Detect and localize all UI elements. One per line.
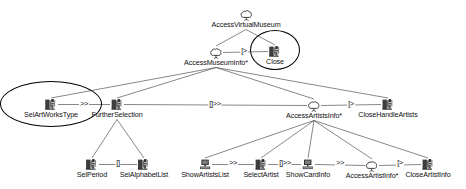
abstract-task-cloud-icon [209, 46, 223, 59]
task-node-showArtistsList[interactable]: ShowArtistsList [181, 158, 229, 179]
task-node-closeHandleArtists[interactable]: CloseHandleArtists [358, 98, 417, 119]
task-node-label: Close [266, 58, 284, 66]
enabling-operator[interactable]: >> [335, 158, 345, 167]
enabling-with-info-operator[interactable]: []>> [208, 99, 221, 108]
interaction-task-icon [44, 98, 58, 111]
task-node-accessArtistInfo[interactable]: AccessArtistInfo* [346, 159, 399, 180]
task-node-label: CloseArtistInfo [405, 171, 450, 179]
task-node-label: AccessArtistsInfo* [286, 112, 342, 120]
task-node-label: FurtherSelection [91, 111, 142, 119]
interaction-task-icon [268, 45, 282, 58]
tree-edge-accessMuseumInfo-closeHandleArtists [216, 68, 388, 99]
task-node-label: ShowArtistsList [181, 171, 229, 179]
tree-edge-accessMuseumInfo-selArtWorksType [51, 68, 216, 99]
task-node-selArtWorksType[interactable]: SelArtWorksType [24, 98, 78, 119]
tree-edge-furtherSelection-selAlphabetList [117, 120, 144, 159]
task-node-label: ShowCardInfo [286, 171, 330, 179]
tree-edge-accessMuseumInfo-accessArtistsInfo [216, 68, 314, 100]
application-task-icon [301, 158, 315, 171]
tree-edge-accessArtistsInfo-closeArtistInfo [314, 121, 428, 159]
task-node-accessArtistsInfo[interactable]: AccessArtistsInfo* [286, 99, 342, 120]
interaction-task-icon [421, 158, 435, 171]
abstract-task-cloud-icon [365, 159, 379, 172]
disabling-operator[interactable]: [> [396, 158, 404, 167]
enabling-with-info-operator[interactable]: []>> [278, 158, 291, 167]
task-node-selAlphabetList[interactable]: SelAlphabetList [120, 158, 168, 179]
tree-edge-furtherSelection-selPeriod [92, 120, 117, 159]
disabling-operator[interactable]: [> [347, 99, 355, 108]
task-node-selectArtist[interactable]: SelectArtist [243, 158, 278, 179]
abstract-task-cloud-icon [239, 8, 253, 21]
abstract-task-cloud-icon [307, 99, 321, 112]
interaction-task-icon [137, 158, 151, 171]
interaction-task-icon [254, 158, 268, 171]
task-node-closeArtistInfo[interactable]: CloseArtistInfo [405, 158, 450, 179]
tree-edge-accessArtistsInfo-selectArtist [261, 121, 314, 159]
interaction-task-icon [85, 158, 99, 171]
task-node-label: SelAlphabetList [120, 171, 168, 179]
interaction-task-icon [381, 98, 395, 111]
task-node-close[interactable]: Close [266, 45, 284, 66]
tree-edge-accessMuseumInfo-furtherSelection [117, 68, 216, 99]
task-node-label: SelectArtist [243, 171, 278, 179]
tree-edge-accessArtistsInfo-showArtistsList [205, 121, 314, 159]
task-node-showCardInfo[interactable]: ShowCardInfo [286, 158, 330, 179]
task-node-label: SelArtWorksType [24, 111, 78, 119]
task-node-accessMuseumInfo[interactable]: AccessMuseumInfo* [184, 46, 248, 67]
ctt-task-model-diagram: AccessVirtualMuseumAccessMuseumInfo*Clos… [0, 0, 466, 189]
task-node-label: AccessMuseumInfo* [184, 59, 248, 67]
tree-edge-accessVirtualMuseum-accessMuseumInfo [216, 30, 246, 47]
task-node-label: SelPeriod [77, 171, 107, 179]
application-task-icon [198, 158, 212, 171]
tree-edge-accessArtistsInfo-accessArtistInfo [314, 121, 372, 160]
task-node-accessVirtualMuseum[interactable]: AccessVirtualMuseum [211, 8, 280, 29]
enabling-operator[interactable]: >> [79, 99, 89, 108]
task-node-selPeriod[interactable]: SelPeriod [77, 158, 107, 179]
tree-edge-accessArtistsInfo-showCardInfo [308, 121, 314, 159]
disabling-operator[interactable]: [> [240, 46, 248, 55]
task-node-label: AccessArtistInfo* [346, 172, 399, 180]
tree-edge-accessVirtualMuseum-close [246, 30, 275, 46]
enabling-operator[interactable]: >> [228, 158, 238, 167]
task-node-label: AccessVirtualMuseum [211, 21, 280, 29]
task-node-furtherSelection[interactable]: FurtherSelection [91, 98, 142, 119]
interaction-task-icon [110, 98, 124, 111]
task-node-label: CloseHandleArtists [358, 111, 417, 119]
choice-operator[interactable]: [] [115, 158, 120, 167]
